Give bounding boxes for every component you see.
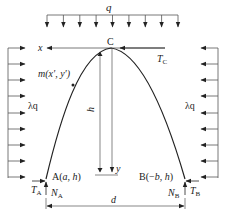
support-a: A(a, h) TA NA bbox=[31, 171, 81, 200]
point-m bbox=[72, 84, 75, 87]
tb-label: TB bbox=[190, 185, 201, 198]
nb-label: NB bbox=[167, 187, 180, 200]
top-load-label: q bbox=[106, 1, 112, 13]
apex-label: C bbox=[107, 36, 114, 47]
span-label: d bbox=[111, 194, 117, 205]
right-lateral-load bbox=[201, 48, 218, 178]
span-dimension: d bbox=[46, 194, 185, 209]
point-m-label: m(x′, y′) bbox=[38, 68, 71, 80]
x-axis-label: x bbox=[37, 42, 43, 53]
support-b: B(−b, h) TB NB bbox=[139, 171, 201, 200]
arch-diagram: q λq λq x C TC h y bbox=[0, 0, 226, 213]
support-b-label: B(−b, h) bbox=[139, 171, 173, 183]
left-lateral-load bbox=[8, 48, 25, 178]
right-load-label: λq bbox=[185, 100, 195, 111]
na-label: NA bbox=[50, 187, 63, 200]
y-axis-label: y bbox=[115, 163, 121, 174]
apex-force-label: TC bbox=[157, 53, 168, 66]
top-distributed-load: q bbox=[47, 1, 178, 27]
left-load-label: λq bbox=[28, 100, 38, 111]
ta-label: TA bbox=[31, 184, 42, 197]
height-label: h bbox=[85, 107, 96, 112]
support-a-label: A(a, h) bbox=[52, 171, 81, 183]
top-load-arrows bbox=[47, 15, 178, 27]
